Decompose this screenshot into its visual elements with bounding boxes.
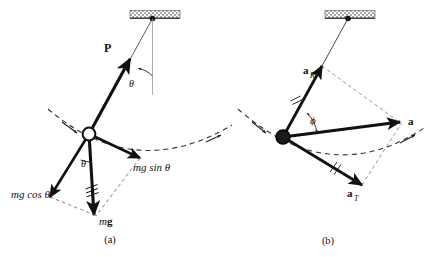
caption-a: (a) <box>104 234 116 246</box>
caption-b: (b) <box>322 235 335 247</box>
weight-label-m: m <box>99 215 107 227</box>
tangential-accel-label: a <box>347 187 353 199</box>
tension-label: P <box>104 41 111 55</box>
figure-background <box>0 0 437 257</box>
physics-figure: P θ θ mg sin θ mg cos θ m g (a) <box>0 0 437 257</box>
tangential-accel-subscript: T <box>354 194 359 203</box>
ceiling-hatch-a <box>130 11 180 19</box>
angle-theta-bob-label: θ <box>81 158 86 169</box>
weight-label-g: g <box>107 215 113 227</box>
pendulum-bob-b <box>276 130 290 144</box>
radial-accel-label: a <box>303 64 309 76</box>
figure-canvas: P θ θ mg sin θ mg cos θ m g (a) <box>0 0 437 257</box>
angle-theta-top-label: θ <box>129 78 134 89</box>
tangential-component-label: mg sin θ <box>133 161 171 173</box>
angle-phi-label: ϕ <box>310 114 316 126</box>
weight-label-group: m g <box>99 215 113 227</box>
resultant-accel-label: a <box>408 115 414 127</box>
radial-component-label: mg cos θ <box>11 188 51 200</box>
pendulum-bob-a <box>83 128 96 141</box>
radial-accel-subscript: R <box>309 71 315 80</box>
